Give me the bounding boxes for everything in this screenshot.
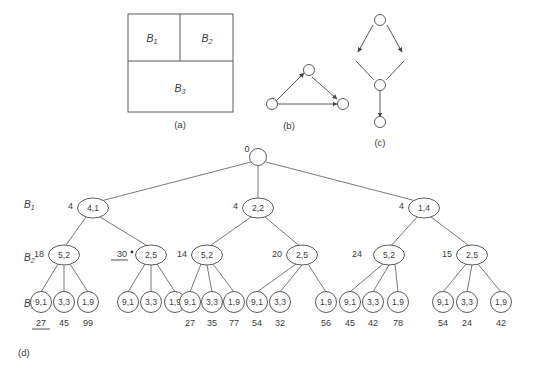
level1-node-1-cost: 4 bbox=[233, 201, 238, 211]
level2-node-5-value: 2,5 bbox=[466, 250, 478, 260]
leaf-2-cost: 99 bbox=[83, 318, 93, 328]
leaf-6-value: 9,1 bbox=[184, 297, 196, 307]
level2-node-3-cost: 20 bbox=[272, 249, 282, 259]
tree-node-level1-0[interactable]: 4,1 4 bbox=[68, 198, 109, 218]
tree-leaf-17[interactable]: 1,9 42 bbox=[491, 292, 512, 329]
tree-leaf-10[interactable]: 3,3 32 bbox=[270, 292, 291, 329]
tree-node-level1-2[interactable]: 1,4 4 bbox=[399, 198, 440, 218]
tree-edges-level2-leaves bbox=[41, 264, 501, 292]
leaf-9-value: 9,1 bbox=[251, 297, 263, 307]
tree-leaf-2[interactable]: 1,9 99 bbox=[78, 292, 99, 329]
leaf-16-cost: 24 bbox=[462, 318, 472, 328]
tree-leaf-13[interactable]: 3,3 42 bbox=[363, 292, 384, 329]
leaf-16-value: 3,3 bbox=[461, 297, 473, 307]
panel-c-node-bottom bbox=[375, 117, 386, 128]
edge-root-n3 bbox=[266, 162, 424, 203]
edge-m2-l6 bbox=[157, 264, 175, 292]
tree-node-level2-5[interactable]: 2,5 15 bbox=[442, 245, 488, 265]
tree-leaf-14[interactable]: 1,9 78 bbox=[388, 292, 409, 329]
panel-b: (b) bbox=[267, 65, 349, 131]
tree-leaf-3[interactable]: 9,1 bbox=[118, 292, 139, 313]
level2-node-2-cost: 14 bbox=[177, 249, 187, 259]
edge-n3-m5 bbox=[389, 217, 417, 248]
edge-m5-l14 bbox=[373, 265, 389, 292]
level1-node-2-cost: 4 bbox=[399, 201, 404, 211]
tree-leaf-15[interactable]: 9,1 54 bbox=[433, 292, 454, 329]
leaf-13-cost: 42 bbox=[368, 318, 378, 328]
edge-n1-m2 bbox=[100, 217, 151, 248]
root-node-cost: 0 bbox=[244, 144, 249, 154]
tree-leaf-12[interactable]: 9,1 45 bbox=[340, 292, 361, 329]
edge-m6-l17 bbox=[467, 265, 472, 292]
tree-leaf-7[interactable]: 3,3 35 bbox=[202, 292, 223, 329]
tree-leaf-9[interactable]: 9,1 54 bbox=[247, 292, 268, 329]
tree-edges-level1-level2 bbox=[64, 217, 472, 248]
edge-m2-l4 bbox=[128, 264, 145, 292]
tree-node-level2-0[interactable]: 5,2 18 bbox=[34, 245, 80, 265]
tree-leaf-6[interactable]: 9,1 27 bbox=[180, 292, 201, 329]
leaf-17-value: 1,9 bbox=[495, 297, 507, 307]
level1-node-0-value: 4,1 bbox=[87, 203, 99, 213]
edge-m3-l9 bbox=[213, 264, 234, 292]
panel-c-edge-top-left bbox=[358, 25, 373, 52]
leaf-1-cost: 45 bbox=[59, 318, 69, 328]
level2-node-2-value: 5,2 bbox=[201, 250, 213, 260]
level2-node-1-star-marker bbox=[131, 251, 134, 254]
panel-d: B1 B2 B3 bbox=[18, 144, 512, 358]
tree-leaf-0[interactable]: 9,1 27 bbox=[31, 292, 52, 330]
edge-n2-m4 bbox=[265, 217, 302, 248]
leaf-8-cost: 77 bbox=[229, 318, 239, 328]
leaf-11-value: 1,9 bbox=[320, 297, 332, 307]
level2-node-0-cost: 18 bbox=[34, 249, 44, 259]
tree-node-level2-4[interactable]: 5,2 24 bbox=[352, 245, 405, 265]
edge-m5-l15 bbox=[395, 264, 398, 292]
leaf-2-value: 1,9 bbox=[82, 297, 94, 307]
leaf-15-value: 9,1 bbox=[437, 297, 449, 307]
edge-m6-l18 bbox=[478, 264, 501, 292]
panel-c-node-top bbox=[375, 15, 386, 26]
panel-b-node-left bbox=[267, 99, 278, 110]
leaf-12-cost: 45 bbox=[345, 318, 355, 328]
leaf-9-cost: 54 bbox=[252, 318, 262, 328]
level1-node-0-cost: 4 bbox=[68, 201, 73, 211]
panel-a-caption: (a) bbox=[174, 119, 186, 130]
level2-node-1-cost: 30 bbox=[117, 249, 127, 259]
row-label-b1: B1 bbox=[24, 199, 35, 211]
leaf-13-value: 3,3 bbox=[367, 297, 379, 307]
panel-b-edge-left-top bbox=[276, 73, 304, 101]
root-node-circle[interactable] bbox=[250, 149, 267, 166]
edge-n2-m3 bbox=[207, 217, 251, 248]
level2-node-3-value: 2,5 bbox=[296, 250, 308, 260]
level2-node-4-cost: 24 bbox=[352, 249, 362, 259]
leaf-4-value: 3,3 bbox=[145, 297, 157, 307]
tree-leaf-11[interactable]: 1,9 56 bbox=[316, 292, 337, 329]
level2-node-0-value: 5,2 bbox=[58, 250, 70, 260]
level2-node-5-cost: 15 bbox=[442, 249, 452, 259]
level1-node-1-value: 2,2 bbox=[252, 203, 264, 213]
tree-node-level2-1[interactable]: 2,5 30 bbox=[111, 245, 167, 265]
leaf-17-cost: 42 bbox=[496, 318, 506, 328]
tree-node-level2-2[interactable]: 5,2 14 bbox=[177, 245, 223, 265]
tree-leaf-16[interactable]: 3,3 24 bbox=[457, 292, 478, 329]
panel-c-node-middle bbox=[375, 80, 386, 91]
panel-b-node-right bbox=[338, 99, 349, 110]
level2-node-4-value: 5,2 bbox=[383, 250, 395, 260]
tree-leaf-4[interactable]: 3,3 bbox=[141, 292, 162, 313]
panel-a: B1 B2 B3 (a) bbox=[128, 14, 233, 130]
leaf-0-value: 9,1 bbox=[35, 297, 47, 307]
tree-node-root[interactable]: 0 bbox=[244, 144, 266, 166]
edge-m4-l10 bbox=[257, 264, 296, 292]
level2-node-1-value: 2,5 bbox=[145, 250, 157, 260]
tree-node-level1-1[interactable]: 2,2 4 bbox=[233, 198, 274, 218]
leaf-10-cost: 32 bbox=[275, 318, 285, 328]
panel-c: (c) bbox=[356, 15, 404, 148]
tree-node-level2-3[interactable]: 2,5 20 bbox=[272, 245, 318, 265]
tree-edges-root-level1 bbox=[93, 162, 424, 203]
edge-m4-l12 bbox=[308, 264, 326, 292]
panel-b-edge-top-right bbox=[312, 77, 337, 99]
leaf-14-cost: 78 bbox=[393, 318, 403, 328]
tree-leaf-1[interactable]: 3,3 45 bbox=[54, 292, 75, 329]
panel-c-edge-left-bottom bbox=[356, 61, 374, 80]
tree-leaf-8[interactable]: 1,9 77 bbox=[224, 292, 245, 329]
tree-level-b1: 4,1 4 2,2 4 1,4 4 bbox=[68, 198, 440, 218]
